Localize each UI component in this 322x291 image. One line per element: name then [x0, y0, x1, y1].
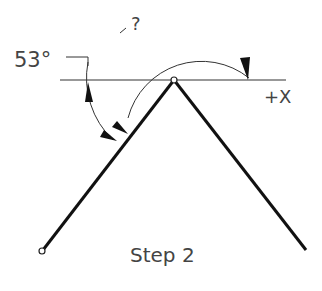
x-axis-label: +X: [264, 86, 291, 107]
left-leg-line: [43, 80, 174, 250]
angle-unknown-label: ?: [131, 13, 141, 34]
apex-point-marker: [171, 77, 177, 83]
angle-unknown-leader: [120, 28, 126, 33]
angle-unknown-arrowhead-right: [240, 57, 250, 80]
angle-unknown-arrowhead-left: [112, 121, 128, 134]
left-end-point-marker: [39, 248, 45, 254]
angle-unknown-arc: [128, 61, 249, 118]
angle-53-arrowhead-bottom: [100, 130, 117, 141]
angle-53-label: 53°: [14, 48, 51, 72]
step-2-angle-diagram: 53° ? +X Step 2: [0, 0, 322, 291]
angle-53-arrowhead-top: [85, 82, 93, 102]
angle-53-leader-line: [66, 57, 88, 66]
step-label: Step 2: [130, 243, 195, 267]
